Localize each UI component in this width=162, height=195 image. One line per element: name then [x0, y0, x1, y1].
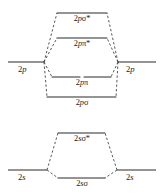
dash-left-to-2ssigmastar	[47, 133, 58, 170]
dash-left-to-2ppi	[44, 62, 52, 77]
label-2p-pi: 2pπ	[76, 79, 88, 87]
dash-right-to-2ssigma	[105, 170, 117, 178]
label-2p-sigma-star: 2pσ*	[74, 15, 91, 23]
dash-right-to-2psigmastar	[107, 13, 118, 62]
label-2p-pi-star: 2pπ*	[74, 40, 90, 48]
dash-left-to-2psigmastar	[44, 13, 57, 62]
label-atomic-2s-left: 2s	[18, 173, 25, 182]
label-atomic-2s-right: 2s	[126, 173, 133, 182]
dash-left-to-2ssigma	[47, 170, 58, 178]
mo-energy-diagram: 2pσ* 2pπ* 2pπ 2pσ 2sσ* 2sσ 2p 2p 2s 2s	[0, 0, 162, 195]
label-2p-sigma: 2pσ	[76, 99, 89, 107]
label-atomic-2p-right: 2p	[126, 65, 134, 74]
dash-right-to-2psigma	[116, 62, 118, 97]
dash-right-to-2ppi	[111, 62, 118, 77]
label-2s-sigma-star: 2sσ*	[74, 135, 90, 143]
dash-right-to-2ssigmastar	[105, 133, 117, 170]
dash-left-to-2ppistar	[44, 38, 57, 62]
label-atomic-2p-left: 2p	[18, 65, 26, 74]
dash-right-to-2ppistar	[107, 38, 118, 62]
label-2s-sigma: 2sσ	[76, 180, 88, 188]
